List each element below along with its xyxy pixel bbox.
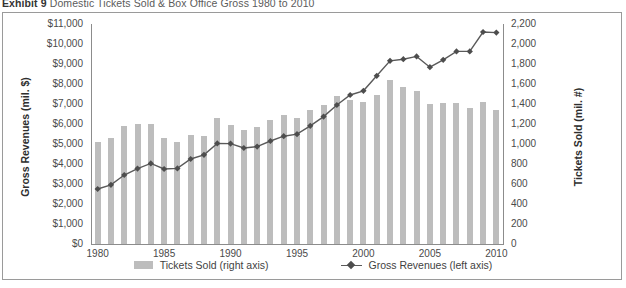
line-marker bbox=[134, 166, 140, 172]
chart-legend: Tickets Sold (right axis) Gross Revenues… bbox=[3, 259, 623, 271]
chart-page: Exhibit 9 Domestic Tickets Sold & Box Of… bbox=[0, 0, 626, 288]
legend-item-tickets-sold[interactable]: Tickets Sold (right axis) bbox=[134, 259, 269, 271]
bar-swatch-icon bbox=[134, 261, 153, 269]
x-tick: 1990 bbox=[219, 249, 241, 259]
line-marker bbox=[148, 160, 154, 166]
line-marker bbox=[281, 133, 287, 139]
chart-frame: Gross Revenues (mil. $) Tickets Sold (mi… bbox=[2, 12, 622, 280]
legend-label-tickets-sold: Tickets Sold (right axis) bbox=[160, 259, 269, 271]
plot-area bbox=[91, 24, 503, 244]
legend-item-gross-revenues[interactable]: Gross Revenues (left axis) bbox=[341, 259, 493, 271]
exhibit-label: Exhibit 9 bbox=[2, 0, 47, 9]
x-tick: 1985 bbox=[153, 249, 175, 259]
line-marker bbox=[95, 186, 101, 192]
line-marker bbox=[267, 138, 273, 144]
line-swatch-icon bbox=[341, 261, 362, 270]
line-marker bbox=[241, 145, 247, 151]
legend-label-gross-revenues: Gross Revenues (left axis) bbox=[369, 259, 493, 271]
x-tick: 2010 bbox=[485, 249, 507, 259]
line-marker bbox=[493, 30, 499, 36]
y-axis-right-line bbox=[503, 24, 504, 245]
line-path bbox=[98, 32, 497, 189]
line-series bbox=[91, 24, 503, 244]
exhibit-title-text: Domestic Tickets Sold & Box Office Gross… bbox=[50, 0, 315, 9]
x-axis-line bbox=[91, 244, 503, 245]
exhibit-title: Exhibit 9 Domestic Tickets Sold & Box Of… bbox=[2, 0, 315, 9]
line-marker bbox=[161, 166, 167, 172]
line-marker bbox=[400, 56, 406, 62]
line-marker bbox=[227, 141, 233, 147]
x-tick: 2000 bbox=[352, 249, 374, 259]
x-tick: 1980 bbox=[87, 249, 109, 259]
line-marker bbox=[254, 144, 260, 150]
x-tick: 2005 bbox=[419, 249, 441, 259]
x-tick: 1995 bbox=[286, 249, 308, 259]
